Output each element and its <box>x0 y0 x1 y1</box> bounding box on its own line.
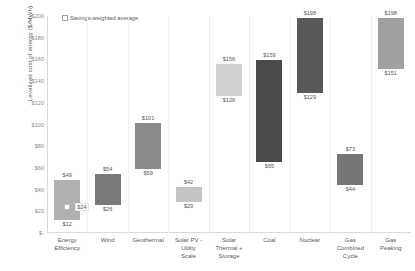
bar-group: $156$126 <box>209 16 249 233</box>
x-axis-category-label-line: Efficiency <box>47 244 87 252</box>
bar-low-value-label: $65 <box>265 163 274 169</box>
y-axis-tick-label: $80 <box>2 143 44 149</box>
savings-weighted-average-marker-icon <box>64 204 70 210</box>
bar-high-value-label: $42 <box>184 179 193 185</box>
range-bar[interactable] <box>256 60 282 162</box>
x-axis-category-label: SolarThermal +Storage <box>209 236 249 260</box>
range-bar[interactable] <box>135 123 161 169</box>
x-axis-category-label-line: Coal <box>249 236 289 244</box>
x-axis-category-label-line: Solar PV - <box>168 236 208 244</box>
x-axis-category-label: Geothermal <box>128 236 168 244</box>
range-bar[interactable] <box>216 64 242 97</box>
y-axis-title: Levelized cost of energy ($/MWh) <box>26 0 33 139</box>
bar-low-value-label: $44 <box>346 186 355 192</box>
bar-high-value-label: $49 <box>63 172 72 178</box>
x-axis-category-label-line: Energy <box>47 236 87 244</box>
x-axis-category-label: GasPeaking <box>371 236 411 252</box>
bar-group: $101$59 <box>128 16 168 233</box>
y-axis-tick-label: $200 <box>2 13 44 19</box>
x-axis-category-label-line: Geothermal <box>128 236 168 244</box>
x-axis-category-label: Wind <box>87 236 127 244</box>
bar-high-value-label: $101 <box>142 115 154 121</box>
y-axis-tick-label: $160 <box>2 56 44 62</box>
bar-group: $73$44 <box>330 16 370 233</box>
x-axis-category-label: Nuclear <box>290 236 330 244</box>
bar-high-value-label: $159 <box>263 52 275 58</box>
range-bar[interactable] <box>337 154 363 185</box>
x-axis-category-label-line: Peaking <box>371 244 411 252</box>
range-bar[interactable] <box>378 18 404 69</box>
y-axis-tick-label: $- <box>2 230 44 236</box>
bar-low-value-label: $12 <box>63 221 72 227</box>
x-axis-category-label-line: Cycle <box>330 252 370 260</box>
x-axis-category-label-line: Scale <box>168 252 208 260</box>
y-axis-tick-label: $180 <box>2 35 44 41</box>
y-axis-tick-label: $140 <box>2 78 44 84</box>
bar-group: $49$12$24 <box>47 16 87 233</box>
bar-low-value-label: $151 <box>385 70 397 76</box>
x-axis-category-label-line: Gas <box>371 236 411 244</box>
x-axis-category-label-line: Wind <box>87 236 127 244</box>
x-axis-category-label: GasCombinedCycle <box>330 236 370 260</box>
bar-high-value-label: $198 <box>385 10 397 16</box>
y-axis-tick-label: $20 <box>2 208 44 214</box>
y-axis-tick-label: $40 <box>2 187 44 193</box>
x-axis-category-label-line: Nuclear <box>290 236 330 244</box>
y-axis-tick-label: $100 <box>2 122 44 128</box>
x-axis-category-label-line: Combined <box>330 244 370 252</box>
x-axis-labels: EnergyEfficiencyWindGeothermalSolar PV -… <box>47 236 411 271</box>
x-axis-category-label: Solar PV -UtilityScale <box>168 236 208 260</box>
bar-high-value-label: $73 <box>346 146 355 152</box>
range-bar[interactable] <box>95 174 121 204</box>
bar-high-value-label: $156 <box>223 56 235 62</box>
bar-low-value-label: $29 <box>184 203 193 209</box>
range-bar[interactable] <box>176 187 202 201</box>
y-axis-tick-label: $120 <box>2 100 44 106</box>
bar-high-value-label: $198 <box>304 10 316 16</box>
x-axis-category-label-line: Thermal + <box>209 244 249 252</box>
x-axis-category-label: Coal <box>249 236 289 244</box>
x-axis-category-label-line: Storage <box>209 252 249 260</box>
range-bar[interactable] <box>54 180 80 220</box>
range-bar[interactable] <box>297 18 323 93</box>
bar-group: $54$26 <box>87 16 127 233</box>
x-axis-category-label: EnergyEfficiency <box>47 236 87 252</box>
levelized-cost-chart: Levelized cost of energy ($/MWh) Savings… <box>0 0 415 271</box>
bar-group: $42$29 <box>168 16 208 233</box>
bar-low-value-label: $129 <box>304 94 316 100</box>
bar-low-value-label: $26 <box>103 206 112 212</box>
x-axis-category-label-line: Gas <box>330 236 370 244</box>
plot-area: $200$180$160$140$120$100$80$60$40$20$-$4… <box>47 16 411 233</box>
y-axis-tick-label: $60 <box>2 165 44 171</box>
x-axis-category-label-line: Utility <box>168 244 208 252</box>
bar-high-value-label: $54 <box>103 166 112 172</box>
bar-group: $198$129 <box>290 16 330 233</box>
x-axis-category-label-line: Solar <box>209 236 249 244</box>
bar-group: $159$65 <box>249 16 289 233</box>
bar-low-value-label: $59 <box>143 170 152 176</box>
bar-low-value-label: $126 <box>223 97 235 103</box>
bar-group: $198$151 <box>371 16 411 233</box>
